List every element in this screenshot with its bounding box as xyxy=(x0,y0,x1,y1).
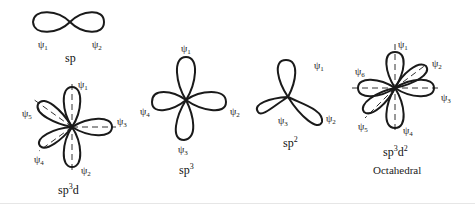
sp2-caption: sp2 xyxy=(283,136,298,149)
sp2-label-psi3: ψ3 xyxy=(278,116,288,128)
sp-caption: sp xyxy=(65,52,76,64)
sp3-caption: sp3 xyxy=(179,163,194,176)
sp3d2-label-psi2: ψ2 xyxy=(432,59,442,71)
sp3-label-psi4: ψ4 xyxy=(140,107,150,119)
hybrid-orbitals-figure: ψ1 ψ2 sp ψ1 ψ5 ψ3 ψ4 ψ2 sp3d ψ1 ψ4 ψ2 ψ3… xyxy=(0,0,475,212)
sp3-label-psi3: ψ3 xyxy=(178,145,188,157)
page-divider xyxy=(0,203,475,204)
sp3d-orbital-shape xyxy=(33,84,116,172)
sp3d-label-psi1: ψ1 xyxy=(78,80,88,92)
sp3d-label-psi4: ψ4 xyxy=(34,155,44,167)
sp3d2-label-psi4: ψ4 xyxy=(403,126,413,138)
sp3d-label-psi2: ψ2 xyxy=(81,166,91,178)
sp3d2-orbital-shape xyxy=(352,44,438,134)
sp3-label-psi2: ψ2 xyxy=(230,107,240,119)
sp3d2-label-psi6: ψ6 xyxy=(355,67,365,79)
sp3d2-subtitle: Octahedral xyxy=(373,164,421,176)
sp3-label-psi1: ψ1 xyxy=(181,44,191,56)
sp-label-psi2: ψ2 xyxy=(92,40,102,52)
sp2-orbital-shape xyxy=(257,60,322,125)
sp3d2-label-psi1: ψ1 xyxy=(398,40,408,52)
sp3d-caption: sp3d xyxy=(58,183,79,196)
sp3d2-label-psi5: ψ5 xyxy=(358,122,368,134)
sp3-orbital-shape xyxy=(152,57,226,140)
sp2-label-psi1: ψ1 xyxy=(314,61,324,73)
sp3d2-label-psi3: ψ3 xyxy=(441,93,451,105)
orbital-drawings xyxy=(0,0,475,212)
sp3d-label-psi3: ψ3 xyxy=(117,117,127,129)
sp-label-psi1: ψ1 xyxy=(38,40,48,52)
sp3d-label-psi5: ψ5 xyxy=(22,109,32,121)
sp-orbital-shape xyxy=(33,12,104,32)
sp3d2-caption: sp3d2 xyxy=(383,145,408,158)
sp2-label-psi2: ψ2 xyxy=(326,114,336,126)
